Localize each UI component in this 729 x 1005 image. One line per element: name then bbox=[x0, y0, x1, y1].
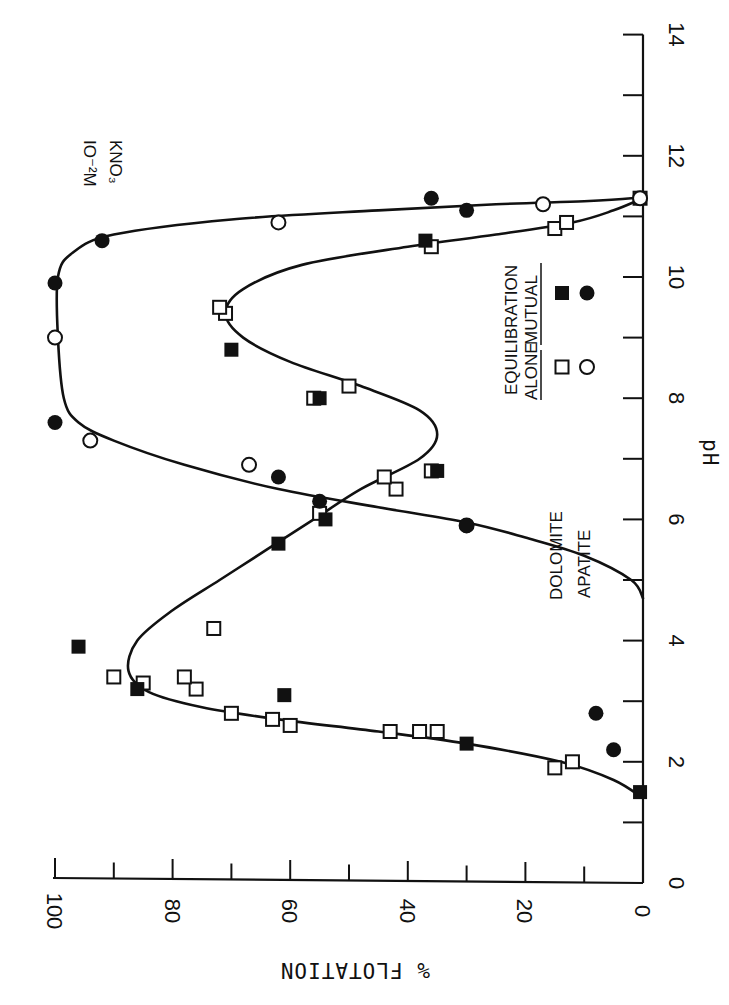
flotation-tick-label: 100 bbox=[42, 893, 67, 930]
legend-row-dolomite: DOLOMITE bbox=[547, 511, 566, 600]
axis-labels: 02468101214020406080100pH% FLOTATION bbox=[42, 22, 722, 982]
flotation-tick-label: 40 bbox=[395, 899, 420, 923]
filled-circle-marker bbox=[459, 518, 474, 533]
open-square-marker bbox=[566, 755, 579, 768]
open-square-marker bbox=[413, 725, 426, 738]
flotation-tick-label: 80 bbox=[160, 899, 185, 923]
annotation-line-1: IO⁻²M bbox=[80, 140, 99, 187]
open-square-marker bbox=[213, 301, 226, 314]
ph-tick-label: 14 bbox=[664, 22, 689, 46]
filled-circle-marker bbox=[424, 191, 439, 206]
open-square-marker bbox=[556, 361, 569, 374]
open-circle-marker bbox=[536, 197, 550, 211]
filled-square-marker bbox=[460, 737, 474, 751]
open-square-marker bbox=[431, 725, 444, 738]
flotation-tick-label: 0 bbox=[630, 905, 655, 917]
filled-circle-marker bbox=[95, 233, 110, 248]
filled-circle-marker bbox=[48, 415, 63, 430]
ph-axis-title: pH bbox=[698, 439, 722, 466]
open-square-marker bbox=[178, 670, 191, 683]
filled-square-marker bbox=[318, 512, 332, 526]
filled-square-marker bbox=[224, 343, 238, 357]
open-square-marker bbox=[207, 622, 220, 635]
filled-square-marker bbox=[72, 640, 86, 654]
filled-square-marker bbox=[418, 234, 432, 248]
filled-circle-marker bbox=[312, 494, 327, 509]
open-circle-marker bbox=[48, 331, 62, 345]
flotation-tick-label: 20 bbox=[512, 899, 537, 923]
flotation-vs-ph-chart: 02468101214020406080100pH% FLOTATION EQU… bbox=[0, 0, 729, 1005]
filled-circle-marker bbox=[588, 706, 603, 721]
filled-circle-marker bbox=[580, 286, 595, 301]
open-square-marker bbox=[343, 380, 356, 393]
legend-col-alone: ALONE bbox=[522, 342, 541, 400]
filled-square-marker bbox=[430, 464, 444, 478]
open-square-marker bbox=[284, 719, 297, 732]
open-square-marker bbox=[390, 483, 403, 496]
legend-col-mutual: MUTUAL bbox=[522, 275, 541, 345]
ph-tick-label: 4 bbox=[664, 634, 689, 646]
filled-circle-marker bbox=[606, 742, 621, 757]
filled-square-marker bbox=[313, 391, 327, 405]
open-square-marker bbox=[107, 670, 120, 683]
data-points bbox=[48, 191, 648, 799]
filled-square-marker bbox=[277, 688, 291, 702]
ph-tick-label: 0 bbox=[664, 877, 689, 889]
fitted-curves bbox=[57, 195, 643, 798]
open-square-marker bbox=[225, 707, 238, 720]
ph-tick-label: 10 bbox=[664, 265, 689, 289]
axis-ticks bbox=[55, 35, 643, 883]
filled-square-marker bbox=[555, 286, 569, 300]
open-circle-marker bbox=[633, 191, 647, 205]
flotation-tick-label: 60 bbox=[277, 899, 302, 923]
filled-square-marker bbox=[633, 785, 647, 799]
legend: EQUILIBRATIONALONEMUTUALDOLOMITEAPATITE bbox=[502, 263, 595, 600]
open-circle-marker bbox=[271, 215, 285, 229]
kno3-annotation: IO⁻²MKNO₃ bbox=[80, 140, 125, 187]
open-circle-marker bbox=[242, 458, 256, 472]
legend-header: EQUILIBRATION bbox=[502, 265, 521, 395]
filled-circle-marker bbox=[459, 203, 474, 218]
ph-tick-label: 8 bbox=[664, 392, 689, 404]
open-square-marker bbox=[384, 725, 397, 738]
annotation-line-2: KNO₃ bbox=[106, 140, 125, 184]
axes bbox=[53, 35, 643, 883]
filled-square-marker bbox=[130, 682, 144, 696]
legend-row-apatite: APATITE bbox=[575, 530, 594, 598]
ph-tick-label: 6 bbox=[664, 513, 689, 525]
open-square-marker bbox=[378, 470, 391, 483]
open-square-marker bbox=[548, 761, 561, 774]
legend-group: EQUILIBRATIONALONEMUTUALDOLOMITEAPATITE bbox=[502, 263, 595, 600]
filled-square-marker bbox=[271, 537, 285, 551]
filled-circle-marker bbox=[271, 469, 286, 484]
open-square-marker bbox=[266, 713, 279, 726]
filled-circle-marker bbox=[48, 276, 63, 291]
ph-tick-label: 12 bbox=[664, 144, 689, 168]
ph-tick-label: 2 bbox=[664, 756, 689, 768]
open-circle-marker bbox=[83, 434, 97, 448]
open-square-marker bbox=[190, 683, 203, 696]
open-square-marker bbox=[560, 216, 573, 229]
open-circle-marker bbox=[580, 360, 594, 374]
flotation-axis-title: % FLOTATION bbox=[280, 958, 430, 982]
